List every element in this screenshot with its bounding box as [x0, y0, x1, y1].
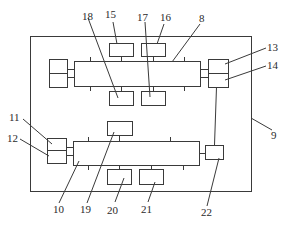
box-17 [142, 92, 166, 106]
label-10: 10 [53, 203, 65, 215]
box-21 [140, 170, 164, 185]
diagram-canvas: 18 15 17 16 8 13 14 9 11 12 10 19 20 21 … [0, 0, 286, 225]
label-14: 14 [267, 59, 279, 71]
box-18 [110, 92, 134, 106]
box-20 [108, 170, 132, 185]
upper-left-box-bottom [50, 74, 68, 88]
label-19: 19 [80, 203, 92, 215]
label-12: 12 [7, 132, 18, 144]
label-21: 21 [141, 203, 152, 215]
lower-main-bar-10 [74, 142, 200, 166]
box-11 [48, 139, 67, 151]
label-11: 11 [9, 111, 20, 123]
label-16: 16 [160, 11, 172, 23]
box-22 [206, 146, 224, 160]
upper-left-box-top [50, 60, 68, 74]
label-13: 13 [267, 41, 279, 53]
leader-9 [251, 118, 272, 130]
box-14 [209, 74, 229, 88]
box-13 [209, 60, 229, 74]
label-17: 17 [137, 11, 149, 23]
box-12 [48, 151, 67, 164]
label-18: 18 [82, 10, 94, 22]
label-15: 15 [105, 8, 117, 20]
label-8: 8 [199, 12, 205, 24]
box-15 [110, 44, 134, 57]
label-20: 20 [107, 204, 119, 216]
label-22: 22 [201, 206, 212, 218]
label-9: 9 [271, 129, 277, 141]
upper-main-bar-8 [75, 62, 201, 87]
box-19 [108, 122, 133, 136]
box-16 [142, 44, 166, 57]
